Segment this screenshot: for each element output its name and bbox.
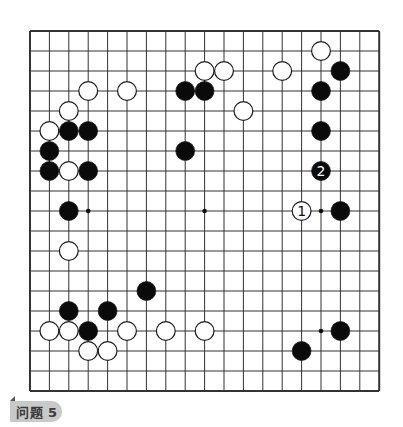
white-stone [59,322,78,341]
black-stone [40,142,59,161]
white-stone [40,322,59,341]
black-stone [195,82,214,101]
white-stone [118,82,137,101]
black-stone [59,202,78,221]
black-stone [137,282,156,301]
black-stone [59,302,78,321]
white-stone [59,102,78,121]
black-stone [292,342,311,361]
go-board: 21 [0,0,403,400]
black-stone: 2 [312,162,331,181]
stones-layer: 21 [40,42,350,361]
black-stone [79,162,98,181]
black-stone [331,322,350,341]
white-stone [40,122,59,141]
black-stone [79,322,98,341]
white-stone: 1 [292,202,311,221]
white-stone [156,322,175,341]
move-number: 1 [297,203,306,219]
star-point [202,209,207,214]
star-point [86,209,91,214]
black-stone [40,162,59,181]
go-board-canvas: 21 [0,0,403,400]
white-stone [273,62,292,81]
white-stone [234,102,253,121]
black-stone [312,82,331,101]
black-stone [59,122,78,141]
black-stone [331,202,350,221]
black-stone [331,62,350,81]
white-stone [195,322,214,341]
white-stone [312,42,331,61]
problem-label-text: 问题 5 [16,402,58,421]
problem-label: 问题 5 [10,401,62,422]
black-stone [98,302,117,321]
white-stone [59,242,78,261]
black-stone [176,82,195,101]
black-stone [79,122,98,141]
white-stone [118,322,137,341]
white-stone [98,342,117,361]
move-number: 2 [317,163,326,179]
white-stone [79,82,98,101]
white-stone [195,62,214,81]
black-stone [176,142,195,161]
white-stone [59,162,78,181]
black-stone [312,122,331,141]
white-stone [79,342,98,361]
star-point [319,329,324,334]
star-point [319,209,324,214]
white-stone [215,62,234,81]
